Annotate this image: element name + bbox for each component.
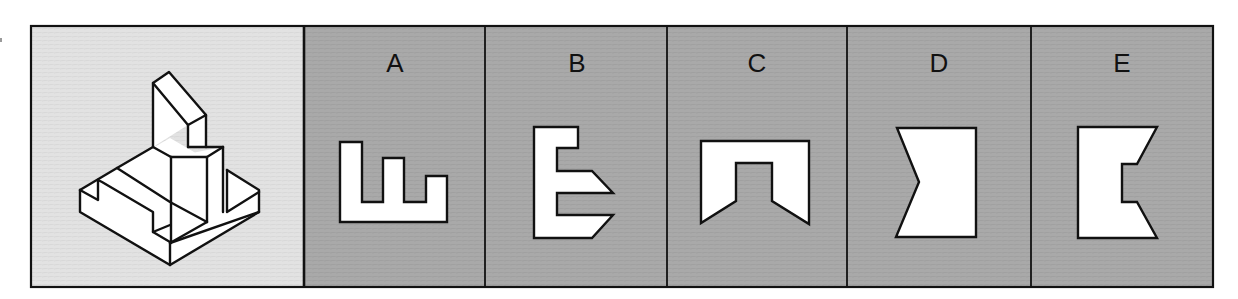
- orthographic-view-puzzle: ABCDE: [0, 0, 1238, 299]
- option-panel-e[interactable]: E: [1031, 26, 1213, 287]
- option-panel-c[interactable]: C: [667, 26, 847, 287]
- answer-options: ABCDE: [304, 26, 1213, 287]
- option-label: E: [1113, 48, 1130, 78]
- option-label: A: [386, 48, 404, 78]
- reference-panel: [31, 26, 304, 287]
- option-panel-a[interactable]: A: [304, 26, 485, 287]
- option-panel-b[interactable]: B: [485, 26, 667, 287]
- option-label: D: [930, 48, 949, 78]
- corner-mark: [0, 38, 2, 42]
- option-label: B: [568, 48, 585, 78]
- option-label: C: [748, 48, 767, 78]
- option-panel-d[interactable]: D: [847, 26, 1031, 287]
